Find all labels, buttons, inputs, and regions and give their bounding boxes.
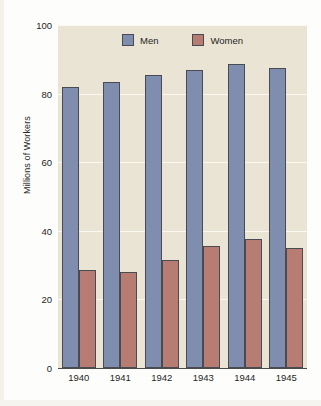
- x-tick-label-1941: 1941: [110, 372, 131, 383]
- legend-label: Women: [210, 35, 243, 46]
- x-tick-label-1945: 1945: [276, 372, 297, 383]
- bar-women-1941: [120, 272, 137, 368]
- bar-men-1942: [145, 75, 162, 368]
- bar-women-1942: [162, 260, 179, 368]
- bar-women-1943: [203, 246, 220, 368]
- bar-men-1940: [62, 87, 79, 368]
- plot-area: MenWomen: [58, 25, 307, 368]
- bar-men-1941: [103, 82, 120, 368]
- y-tick-label: 20: [2, 294, 52, 305]
- bar-men-1945: [269, 68, 286, 368]
- y-axis-tick-labels: 020406080100: [0, 0, 52, 406]
- bar-men-1944: [228, 64, 245, 368]
- x-tick-label-1943: 1943: [193, 372, 214, 383]
- x-axis-line: [58, 368, 307, 369]
- y-tick-label: 100: [2, 20, 52, 31]
- bar-men-1943: [186, 70, 203, 368]
- bar-women-1945: [286, 248, 303, 368]
- x-tick-label-1940: 1940: [68, 372, 89, 383]
- legend-entry-men: Men: [122, 34, 158, 46]
- legend-swatch-women-icon: [192, 34, 204, 46]
- x-tick-label-1944: 1944: [234, 372, 255, 383]
- x-axis-tick-labels: 194019411942194319441945: [58, 372, 307, 392]
- y-tick-label: 60: [2, 157, 52, 168]
- y-tick-label: 40: [2, 225, 52, 236]
- y-tick-label: 0: [2, 363, 52, 374]
- bar-women-1944: [245, 239, 262, 368]
- legend-swatch-men-icon: [122, 34, 134, 46]
- x-tick-label-1942: 1942: [151, 372, 172, 383]
- legend-entry-women: Women: [192, 34, 243, 46]
- bar-chart: Millions of Workers 020406080100 MenWome…: [0, 0, 321, 406]
- legend: MenWomen: [58, 25, 307, 55]
- bar-women-1940: [79, 270, 96, 368]
- y-tick-label: 80: [2, 88, 52, 99]
- legend-label: Men: [140, 35, 158, 46]
